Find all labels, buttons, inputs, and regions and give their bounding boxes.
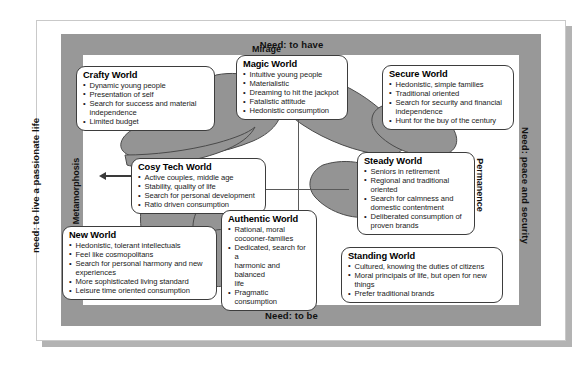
horizontal-axis-line-right <box>299 189 349 190</box>
world-trait: Dedicated, search for a <box>228 243 311 261</box>
world-title-magic: Magic World <box>243 59 342 69</box>
world-box-authentic[interactable]: Authentic WorldRational, moralcocooner-f… <box>221 210 317 311</box>
world-trait: Pragmatic consumption <box>228 288 311 306</box>
world-trait: Prefer traditional brands <box>348 289 497 298</box>
world-box-standing[interactable]: Standing WorldCultured, knowing the duti… <box>341 247 503 303</box>
world-title-secure: Secure World <box>389 69 508 79</box>
need-label-top: Need: to have <box>0 39 583 50</box>
world-title-crafty: Crafty World <box>83 70 209 80</box>
world-trait: Stability, quality of life <box>138 182 260 191</box>
world-title-authentic: Authentic World <box>228 214 311 224</box>
diagram-page: Need: to have Need: to be need: to live … <box>0 0 583 375</box>
world-trait: life <box>228 279 311 288</box>
world-trait: cocooner-families <box>228 234 311 243</box>
world-trait: Limited budget <box>83 117 209 126</box>
world-trait-list-secure: Hedonistic, simple familiesTraditional o… <box>389 80 508 125</box>
world-box-cosy-tech[interactable]: Cosy Tech WorldActive couples, middle ag… <box>131 158 266 214</box>
world-box-magic[interactable]: Magic WorldIntuitive young peopleMateria… <box>236 55 348 120</box>
world-title-cosy: Cosy Tech World <box>138 162 260 172</box>
world-trait: Regional and traditional <box>364 176 469 185</box>
world-trait: domestic contentment <box>364 203 469 212</box>
world-trait: Hedonistic, simple families <box>389 80 508 89</box>
world-trait: Fatalistic attitude <box>243 97 342 106</box>
world-trait: Cultured, knowing the duties of citizens <box>348 262 497 271</box>
world-trait-list-steady: Seniors in retirementRegional and tradit… <box>364 167 469 231</box>
world-trait: Rational, moral <box>228 225 311 234</box>
world-trait: Hedonistic consumption <box>243 106 342 115</box>
world-trait: independence <box>389 107 508 116</box>
world-trait: Search for calmness and <box>364 194 469 203</box>
world-trait: proven brands <box>364 221 469 230</box>
world-trait: Feel like cosmopolitans <box>69 250 211 259</box>
world-trait: Intuitive young people <box>243 70 342 79</box>
world-trait: Traditional oriented <box>389 89 508 98</box>
world-trait: things <box>348 280 497 289</box>
world-trait: harmonic and balanced <box>228 261 311 279</box>
world-trait-list-authentic: Rational, moralcocooner-familiesDedicate… <box>228 225 311 307</box>
world-trait: Dynamic young people <box>83 81 209 90</box>
world-title-steady: Steady World <box>364 156 469 166</box>
world-box-secure[interactable]: Secure WorldHedonistic, simple familiesT… <box>382 65 514 130</box>
world-title-new: New World <box>69 230 211 240</box>
world-trait: Moral principals of life, but open for n… <box>348 271 497 280</box>
axis-label-permanence: Permanence <box>475 125 485 245</box>
world-trait-list-crafty: Dynamic young peoplePresentation of self… <box>83 81 209 126</box>
world-trait: independence <box>83 108 209 117</box>
world-box-steady[interactable]: Steady WorldSeniors in retirementRegiona… <box>357 152 475 235</box>
world-box-new[interactable]: New WorldHedonistic, tolerant intellectu… <box>62 226 217 300</box>
world-trait: Presentation of self <box>83 90 209 99</box>
world-trait-list-standing: Cultured, knowing the duties of citizens… <box>348 262 497 298</box>
world-trait: Active couples, middle age <box>138 173 260 182</box>
world-trait: Search for success and material <box>83 99 209 108</box>
world-trait: Search for personal harmony and new <box>69 259 211 268</box>
world-trait: Hunt for the buy of the century <box>389 116 508 125</box>
world-trait: Seniors in retirement <box>364 167 469 176</box>
world-title-standing: Standing World <box>348 251 497 261</box>
world-trait-list-new: Hedonistic, tolerant intellectualsFeel l… <box>69 241 211 296</box>
world-box-crafty[interactable]: Crafty WorldDynamic young peoplePresenta… <box>76 66 215 131</box>
need-label-left: need: to live a passionate life <box>30 76 41 296</box>
world-trait: Leisure time oriented consumption <box>69 286 211 295</box>
world-trait: Dreaming to hit the jackpot <box>243 88 342 97</box>
world-trait-list-cosy: Active couples, middle ageStability, qua… <box>138 173 260 209</box>
world-trait: Deliberated consumption of <box>364 212 469 221</box>
world-trait: Materialistic <box>243 79 342 88</box>
world-trait: experiences <box>69 268 211 277</box>
need-label-right: Need: peace and security <box>520 76 531 296</box>
world-trait: Search for security and financial <box>389 98 508 107</box>
world-trait-list-magic: Intuitive young peopleMaterialisticDream… <box>243 70 342 115</box>
metamorphosis-arrow-icon <box>99 172 106 180</box>
need-label-bottom: Need: to be <box>0 310 583 321</box>
world-trait: Hedonistic, tolerant intellectuals <box>69 241 211 250</box>
world-trait: Search for personal development <box>138 191 260 200</box>
world-trait: oriented <box>364 185 469 194</box>
world-trait: Ratio driven consumption <box>138 200 260 209</box>
world-trait: More sophisticated living standard <box>69 277 211 286</box>
axis-label-mirage: Mirage <box>252 44 281 54</box>
